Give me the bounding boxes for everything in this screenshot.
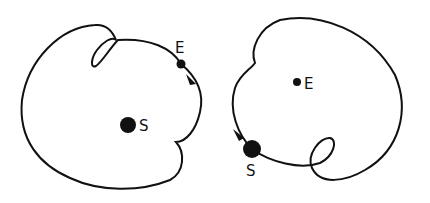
left-panel: S E — [22, 25, 202, 189]
right-earth-label: E — [304, 75, 313, 93]
left-earth-label: E — [175, 39, 184, 57]
left-earth-dot — [177, 60, 186, 69]
right-sun-dot — [243, 140, 261, 158]
right-sun-label: S — [246, 162, 256, 180]
left-sun-label: S — [139, 117, 149, 135]
left-sun-dot — [120, 117, 136, 133]
orbit-diagram: S E E S — [0, 0, 430, 203]
right-earth-dot — [293, 78, 301, 86]
right-panel: E S — [233, 18, 402, 180]
